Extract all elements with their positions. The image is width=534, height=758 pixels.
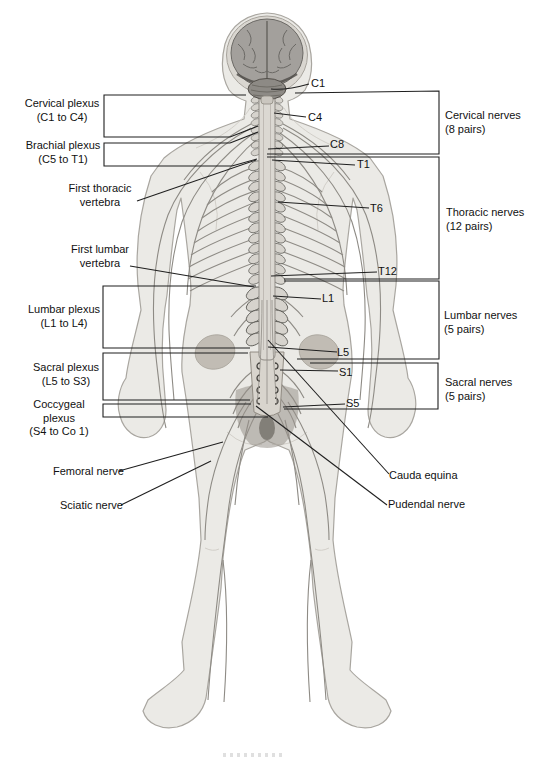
label-thoracic-nerves: Thoracic nerves(12 pairs) <box>446 206 524 233</box>
marker-T6: T6 <box>370 202 383 214</box>
label-femoral-nerve: Femoral nerve <box>53 465 124 479</box>
marker-L5: L5 <box>337 346 349 358</box>
figure-canvas: Cervical plexus(C1 to C4) Brachial plexu… <box>0 0 534 758</box>
label-first-lumbar-vertebra: First lumbarvertebra <box>64 243 136 270</box>
label-sacral-plexus: Sacral plexus(L5 to S3) <box>26 361 106 388</box>
cropped-caption-fragment <box>223 753 285 757</box>
label-sacral-nerves: Sacral nerves(5 pairs) <box>445 376 512 403</box>
label-coccygeal-plexus: Coccygeal plexus(S4 to Co 1) <box>16 398 102 439</box>
label-cervical-plexus: Cervical plexus(C1 to C4) <box>21 97 103 124</box>
label-pudendal-nerve: Pudendal nerve <box>388 498 465 512</box>
marker-S1: S1 <box>339 366 352 378</box>
brainstem <box>261 96 273 104</box>
marker-L1: L1 <box>322 292 334 304</box>
spinal-cord <box>257 88 277 404</box>
label-first-thoracic-vertebra: First thoracicvertebra <box>62 182 138 209</box>
label-brachial-plexus: Brachial plexus(C5 to T1) <box>22 139 104 166</box>
marker-S5: S5 <box>346 397 359 409</box>
marker-T12: T12 <box>378 265 397 277</box>
label-sciatic-nerve: Sciatic nerve <box>60 499 123 513</box>
marker-T1: T1 <box>357 158 370 170</box>
label-cervical-nerves: Cervical nerves(8 pairs) <box>445 109 521 136</box>
marker-C4: C4 <box>308 111 322 123</box>
label-lumbar-nerves: Lumbar nerves(5 pairs) <box>444 309 517 336</box>
marker-C8: C8 <box>330 138 344 150</box>
marker-C1: C1 <box>311 77 325 89</box>
label-lumbar-plexus: Lumbar plexus(L1 to L4) <box>24 303 104 330</box>
label-cauda-equina: Cauda equina <box>389 469 458 483</box>
